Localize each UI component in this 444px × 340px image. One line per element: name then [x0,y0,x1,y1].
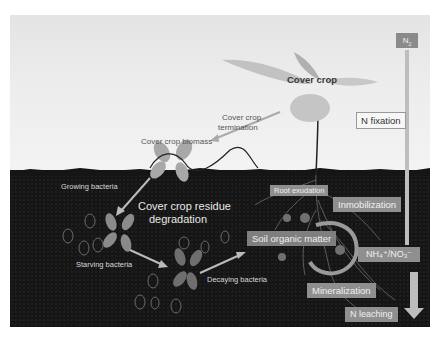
decay-arrow [200,254,242,273]
growing-bacteria-label: Growing bacteria [61,183,118,191]
bacterium-icon [63,229,73,243]
cover-crop-leaf-center [290,94,330,122]
bacterium-icon [135,295,145,309]
bacterium-icon [201,241,209,253]
n2-subscript: 2 [409,41,412,47]
soil-organic-matter-label: Soil organic matter [247,231,336,246]
residue-plant-growing [100,212,136,253]
bacterium-icon [85,214,95,228]
soil-surface-edge [10,168,430,176]
decay-arrow-head [236,252,246,259]
residue-plant-starving [170,247,204,291]
n-fixation-label: N fixation [356,112,406,129]
immobilization-label: Inmobilization [333,197,401,212]
bacterium-icon [79,241,89,255]
termination-label-line2: termination [218,124,258,132]
ammonium-nitrate-label: NH₄⁺/NO₃⁻ [358,247,420,262]
bacterium-icon [221,231,229,243]
bacterium-icon [179,237,189,249]
root-exudation-label: Root exudation [270,185,328,196]
diagram-canvas: N2 Cover crop Cover crop termination Cov… [0,0,444,340]
bacterium-icon [93,238,103,252]
residue-degradation-label: Cover crop residue degradation [138,200,218,226]
bacterium-icon [151,297,159,309]
residue-degradation-line2: degradation [138,213,218,226]
termination-label-line1: Cover crop [222,114,261,122]
decaying-bacteria-label: Decaying bacteria [207,276,267,284]
diagram-graphics [0,0,444,340]
bacterium-icon [171,299,181,313]
bacterium-icon [148,274,158,288]
n-leaching-arrow-shaft [410,272,418,310]
mineralization-label: Mineralization [307,283,376,298]
residue-degradation-line1: Cover crop residue [138,200,218,213]
biomass-label: Cover crop biomass [141,138,212,146]
n-fixation-arrow-shaft [405,50,409,245]
cover-crop-label: Cover crop [287,74,337,85]
starving-bacteria-label: Starving bacteria [76,261,132,269]
n2-label: N2 [396,33,418,48]
degradation-arrow-2 [130,250,163,265]
degradation-arrow-2-head [158,260,168,268]
n-leaching-label: N leaching [345,307,398,322]
n-leaching-arrow-head [404,308,424,319]
